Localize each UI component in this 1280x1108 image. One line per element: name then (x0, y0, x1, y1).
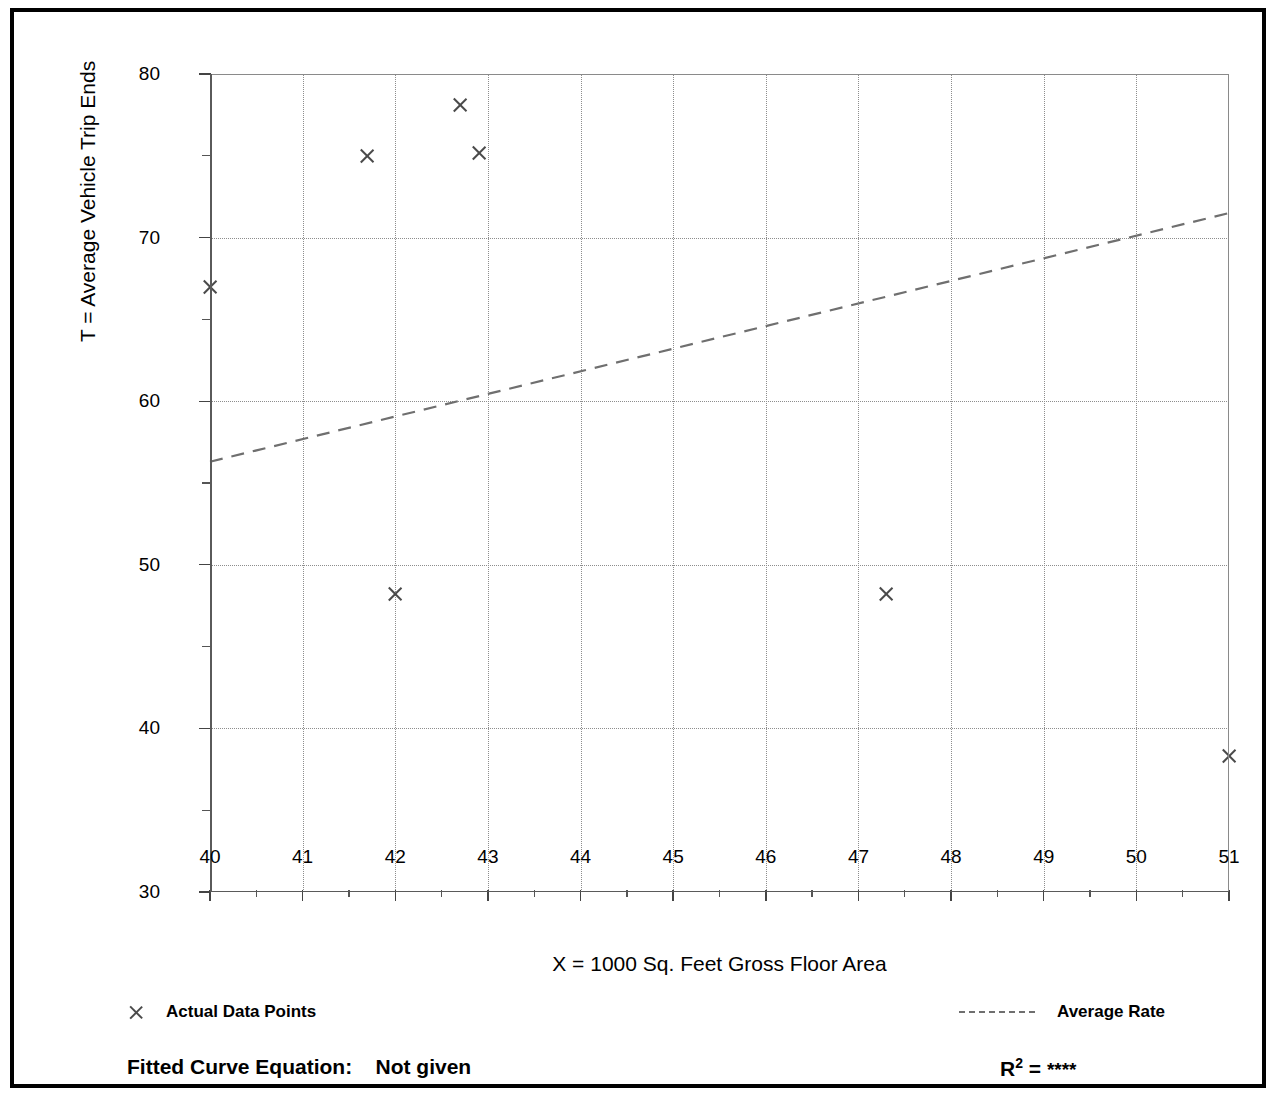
legend-average-rate: Average Rate (959, 1002, 1165, 1022)
y-tick-label: 40 (139, 717, 160, 739)
y-tick-label: 50 (139, 554, 160, 576)
data-point-marker (451, 96, 469, 114)
data-point-marker (1220, 747, 1238, 765)
legend-data-points: Actual Data Points (127, 1002, 316, 1022)
average-rate-trendline (210, 74, 1229, 892)
x-tick-label: 42 (385, 846, 406, 868)
y-tick-label: 30 (139, 881, 160, 903)
axis-right (1228, 74, 1230, 892)
x-tick-label: 51 (1218, 846, 1239, 868)
equation-value: Not given (376, 1055, 472, 1078)
r2-value: **** (1047, 1059, 1077, 1080)
axis-bottom (210, 891, 1229, 893)
x-tick-label: 45 (663, 846, 684, 868)
trendline-segment (210, 213, 1229, 462)
x-tick-label: 50 (1126, 846, 1147, 868)
x-tick-label: 40 (199, 846, 220, 868)
data-point-marker (877, 585, 895, 603)
x-tick-label: 46 (755, 846, 776, 868)
data-point-marker (358, 147, 376, 165)
y-tick-label: 80 (139, 63, 160, 85)
x-tick-label: 48 (941, 846, 962, 868)
axis-left (210, 74, 212, 892)
x-tick-label: 43 (477, 846, 498, 868)
axis-top (210, 74, 1229, 75)
r2-symbol: R (1000, 1057, 1015, 1080)
chart-frame: T = Average Vehicle Trip Ends 4041424344… (10, 8, 1266, 1088)
legend-data-points-label: Actual Data Points (166, 1002, 316, 1022)
y-tick-label: 60 (139, 390, 160, 412)
x-axis-title: X = 1000 Sq. Feet Gross Floor Area (210, 952, 1229, 976)
y-axis-title: T = Average Vehicle Trip Ends (76, 312, 100, 342)
equation-label: Fitted Curve Equation: (127, 1055, 352, 1078)
data-point-marker (386, 585, 404, 603)
dashed-line-icon (959, 1011, 1035, 1013)
fitted-curve-equation: Fitted Curve Equation: Not given (127, 1055, 471, 1079)
r2-exponent: 2 (1015, 1055, 1023, 1071)
chart-page: T = Average Vehicle Trip Ends 4041424344… (0, 0, 1280, 1108)
x-tick-label: 41 (292, 846, 313, 868)
plot-area (210, 74, 1229, 892)
x-marker-icon (127, 1004, 144, 1021)
x-tick-label: 44 (570, 846, 591, 868)
x-tick-label: 49 (1033, 846, 1054, 868)
x-tick-label: 47 (848, 846, 869, 868)
data-point-marker (470, 144, 488, 162)
legend-average-rate-label: Average Rate (1057, 1002, 1165, 1022)
r2-equals: = (1029, 1057, 1041, 1080)
y-tick-label: 70 (139, 227, 160, 249)
r-squared-statistic: R2 = **** (1000, 1055, 1077, 1081)
